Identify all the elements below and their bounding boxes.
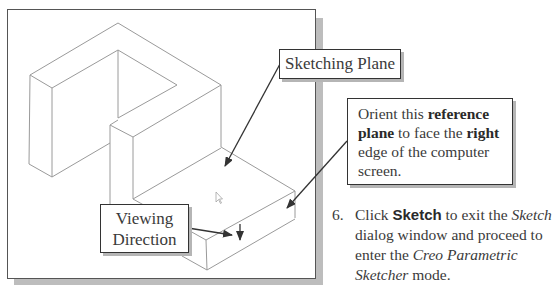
sketch-keyword: Sketch xyxy=(392,206,441,223)
step-text-part: Click xyxy=(355,206,392,223)
viewing-direction-label-line1: Viewing xyxy=(101,208,188,229)
mouse-cursor-icon xyxy=(216,192,223,204)
orient-bold-reference: reference xyxy=(428,105,489,122)
orient-bold-plane: plane xyxy=(358,124,394,141)
step-number: 6. xyxy=(332,205,344,225)
step-italic-sketch: Sketch xyxy=(511,206,551,223)
orient-text: Orient this xyxy=(358,105,428,122)
viewing-direction-label-line2: Direction xyxy=(101,229,188,250)
orient-text: edge of the computer xyxy=(358,143,489,160)
step-text: Click Sketch to exit the Sketch dialog w… xyxy=(355,205,555,285)
sketching-plane-arrow-icon xyxy=(225,64,280,166)
step-text-part: mode. xyxy=(408,266,450,283)
step-text-part: to exit the xyxy=(442,206,512,223)
orient-reference-plane-callout: Orient this reference plane to face the … xyxy=(347,98,513,185)
sketching-plane-callout: Sketching Plane xyxy=(279,49,401,79)
reference-plane-arrow-icon xyxy=(287,141,347,208)
sketching-plane-label: Sketching Plane xyxy=(285,54,395,73)
orient-text: screen. xyxy=(358,162,401,179)
viewing-direction-callout: Viewing Direction xyxy=(100,204,189,253)
orient-text: to face the xyxy=(394,124,466,141)
orient-bold-right: right xyxy=(466,124,499,141)
